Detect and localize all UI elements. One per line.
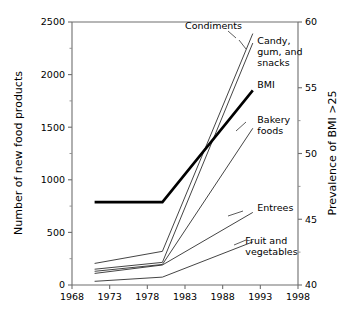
x-tick-label: 1998 <box>286 291 310 302</box>
y-axis-title-right: Prevalence of BMI >25 <box>326 91 339 216</box>
y-tick-label-left: 500 <box>47 227 65 238</box>
x-tick-label: 1983 <box>173 291 197 302</box>
y-tick-label-left: 2500 <box>41 16 65 27</box>
y-tick-label-left: 1000 <box>41 174 65 185</box>
y-tick-label-right: 45 <box>305 214 317 225</box>
y-tick-label-left: 1500 <box>41 122 65 133</box>
series-label-bmi: BMI <box>257 79 275 90</box>
x-tick-label: 1968 <box>60 291 84 302</box>
series-label-condiments: Condiments <box>185 20 242 31</box>
series-label-entrees: Entrees <box>257 202 293 213</box>
y-tick-label-left: 2000 <box>41 69 65 80</box>
x-tick-label: 1973 <box>98 291 122 302</box>
line-chart: 0500100015002000250040455055601968197319… <box>0 0 353 318</box>
y-tick-label-right: 60 <box>305 16 317 27</box>
y-tick-label-right: 50 <box>305 148 317 159</box>
x-tick-label: 1993 <box>248 291 272 302</box>
x-tick-label: 1978 <box>135 291 159 302</box>
x-tick-label: 1988 <box>211 291 235 302</box>
y-tick-label-right: 40 <box>305 279 317 290</box>
y-tick-label-right: 55 <box>305 82 317 93</box>
y-axis-title-left: Number of new food products <box>12 71 25 235</box>
y-tick-label-left: 0 <box>59 279 65 290</box>
chart-container: 0500100015002000250040455055601968197319… <box>0 0 353 318</box>
